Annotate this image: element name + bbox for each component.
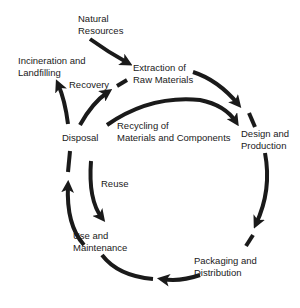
arrow-segment-dash	[249, 113, 255, 127]
node-use-maintenance: Use andMaintenance	[73, 230, 127, 254]
node-label-line: Packaging and	[194, 255, 257, 266]
arrow-resources-to-extraction	[90, 39, 128, 63]
arrow-segment-dash-3	[68, 151, 70, 172]
edge-label-recovery: Recovery	[69, 79, 109, 91]
node-label-line: Distribution	[194, 267, 242, 278]
edge-label-reuse: Reuse	[101, 178, 128, 190]
arrow-design-to-packaging	[256, 153, 267, 224]
node-natural-resources: NaturalResources	[78, 13, 123, 37]
edge-label-line: Materials and Components	[117, 132, 231, 143]
node-label-line: Maintenance	[73, 242, 127, 253]
edge-label-line: Recycling of	[117, 120, 169, 131]
node-extraction-raw-materials: Extraction ofRaw Materials	[133, 62, 193, 86]
node-label-line: Extraction of	[133, 62, 186, 73]
node-label-line: Use and	[73, 230, 108, 241]
node-label-line: Design and	[241, 128, 289, 139]
arrow-recovery-dash	[117, 80, 127, 86]
arrow-disposal-to-incineration	[58, 84, 68, 124]
node-design-production: Design andProduction	[241, 128, 289, 152]
node-label-line: Natural	[78, 13, 109, 24]
node-label-line: Incineration and	[18, 55, 86, 66]
edge-label-recycling: Recycling ofMaterials and Components	[117, 120, 231, 144]
node-incineration-landfilling: Incineration andLandfilling	[18, 55, 86, 79]
arrow-bottom-arc	[102, 255, 153, 279]
arrow-recovery	[80, 92, 108, 125]
node-disposal: Disposal	[62, 132, 98, 144]
node-packaging-distribution: Packaging andDistribution	[194, 255, 257, 279]
node-label-line: Raw Materials	[133, 74, 193, 85]
node-label-line: Resources	[78, 25, 123, 36]
arrow-segment-dash-2	[246, 235, 253, 246]
life-cycle-diagram: NaturalResources Incineration andLandfil…	[0, 0, 300, 308]
node-label-line: Landfilling	[18, 67, 61, 78]
node-label-line: Production	[241, 140, 286, 151]
